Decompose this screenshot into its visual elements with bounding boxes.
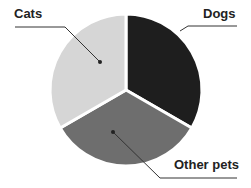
- label-dogs: Dogs: [203, 6, 236, 21]
- dogs-leader-line: [180, 26, 237, 31]
- label-other-pets: Other pets: [174, 157, 239, 172]
- label-cats: Cats: [14, 6, 42, 21]
